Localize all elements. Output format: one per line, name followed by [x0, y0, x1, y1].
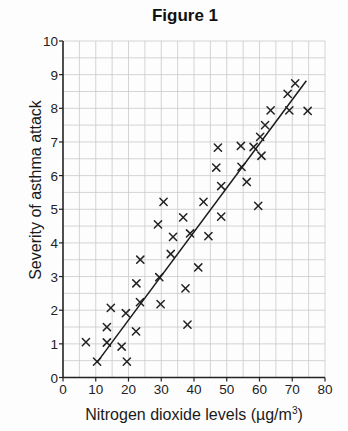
x-marker-icon — [157, 301, 164, 308]
x-tick-label: 40 — [186, 382, 201, 397]
x-marker-icon — [218, 213, 225, 220]
x-marker-icon — [133, 280, 140, 287]
x-tick-label: 70 — [285, 382, 300, 397]
x-tick-label: 20 — [121, 382, 136, 397]
y-tick-label: 0 — [50, 371, 58, 386]
figure-title: Figure 1 — [152, 6, 218, 25]
x-marker-icon — [218, 182, 225, 189]
chart-figure: Figure 1 01020304050607080 012345678910 … — [0, 0, 348, 431]
data-points — [82, 80, 311, 365]
x-axis-title-close: ) — [297, 406, 302, 423]
x-marker-icon — [195, 264, 202, 271]
x-marker-icon — [200, 198, 207, 205]
x-axis-title: Nitrogen dioxide levels (µg/m3) — [85, 405, 303, 423]
y-tick-label: 9 — [50, 68, 58, 83]
x-marker-icon — [154, 221, 161, 228]
x-marker-icon — [123, 358, 130, 365]
x-marker-icon — [205, 233, 212, 240]
x-tick-label: 0 — [59, 382, 67, 397]
x-tick-label: 80 — [317, 382, 332, 397]
scatter-plot: Figure 1 01020304050607080 012345678910 … — [0, 0, 348, 431]
y-tick-label: 4 — [50, 236, 58, 251]
x-tick-label: 30 — [154, 382, 169, 397]
x-marker-icon — [258, 152, 265, 159]
x-tick-label: 60 — [252, 382, 267, 397]
y-tick-label: 10 — [43, 34, 58, 49]
y-tick-label: 7 — [50, 135, 58, 150]
x-marker-icon — [292, 80, 299, 87]
x-marker-icon — [255, 202, 262, 209]
x-marker-icon — [180, 214, 187, 221]
x-axis-ticks: 01020304050607080 — [59, 378, 332, 397]
y-axis-ticks: 012345678910 — [43, 34, 63, 386]
y-tick-label: 1 — [50, 337, 58, 352]
x-marker-icon — [267, 107, 274, 114]
y-tick-label: 8 — [50, 101, 58, 116]
x-tick-label: 10 — [88, 382, 103, 397]
y-tick-label: 6 — [50, 169, 58, 184]
x-marker-icon — [82, 339, 89, 346]
y-tick-label: 5 — [50, 202, 58, 217]
x-marker-icon — [214, 144, 221, 151]
x-axis-title-main: Nitrogen dioxide levels (µg/m — [85, 406, 292, 423]
x-marker-icon — [169, 233, 176, 240]
x-marker-icon — [167, 250, 174, 257]
x-marker-icon — [213, 164, 220, 171]
y-axis-title: Severity of asthma attack — [27, 99, 44, 280]
y-tick-label: 3 — [50, 270, 58, 285]
x-marker-icon — [243, 178, 250, 185]
x-marker-icon — [182, 285, 189, 292]
y-tick-label: 2 — [50, 303, 58, 318]
x-marker-icon — [132, 328, 139, 335]
x-tick-label: 50 — [219, 382, 234, 397]
